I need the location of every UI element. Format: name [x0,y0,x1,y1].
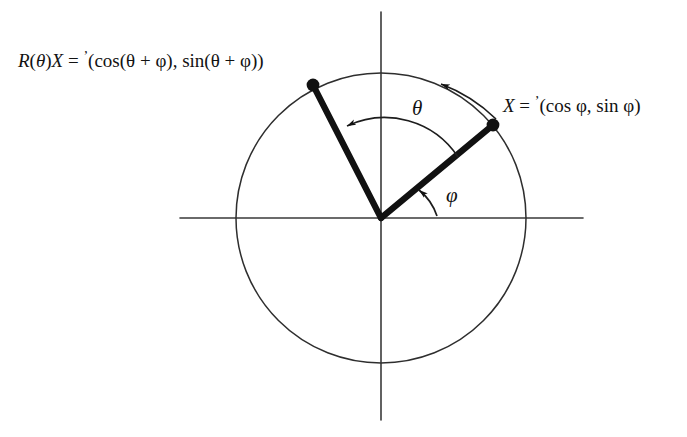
label-rotated-vector: R(θ)X = ʼ(cos(θ + φ), sin(θ + φ)) [18,50,264,70]
label-rotated-equals: = [68,50,79,71]
label-base-vector: X = ʼ(cos φ, sin φ) [503,95,641,115]
label-angle-theta: θ [412,98,422,119]
vector-RX [313,85,381,218]
label-rotated-R: R [18,50,30,71]
label-rotated-theta: θ [36,50,45,71]
point-X-dot [487,119,500,132]
theta-inner-arc [347,118,458,157]
vector-X [381,125,493,218]
point-RX-dot [307,79,320,92]
label-base-equals: = [519,95,530,116]
phi-arc [419,190,437,216]
label-base-X: X [503,95,515,116]
label-angle-phi: φ [446,185,458,206]
label-rotated-rhs: (cos(θ + φ), sin(θ + φ)) [88,50,264,71]
label-base-rhs: (cos φ, sin φ) [540,95,641,116]
vectors-group [313,85,493,218]
label-rotated-X: X [52,50,64,71]
